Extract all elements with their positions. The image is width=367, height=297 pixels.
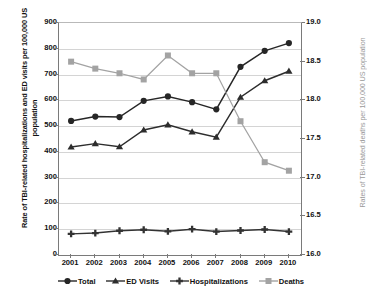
legend-marker-triangle-icon — [106, 276, 125, 286]
x-axis-tick-label: 2010 — [271, 258, 305, 267]
series-ed-visits — [68, 68, 293, 150]
data-point-circle — [286, 40, 292, 46]
data-point-square — [92, 66, 98, 72]
legend-label: Deaths — [279, 277, 304, 286]
chart-legend: TotalED VisitsHospitalizationsDeaths — [58, 276, 304, 286]
data-point-circle — [189, 99, 195, 105]
y-axis-right-tick-label: 19.0 — [306, 17, 332, 26]
legend-marker-cross-icon — [170, 276, 189, 286]
data-point-square — [265, 278, 271, 284]
data-series-layer — [59, 23, 301, 255]
data-point-square — [189, 70, 195, 76]
legend-label: ED Visits — [126, 277, 159, 286]
data-point-cross — [176, 278, 183, 285]
data-point-cross — [237, 227, 244, 234]
data-point-square — [286, 168, 292, 174]
data-point-square — [238, 118, 244, 124]
legend-label: Hospitalizations — [190, 277, 248, 286]
data-point-triangle — [237, 94, 244, 100]
data-point-circle — [213, 106, 219, 112]
legend-marker-square-icon — [259, 276, 278, 286]
plot-area — [58, 22, 302, 256]
data-point-square — [117, 70, 123, 76]
y-axis-right-tick-label: 17.0 — [306, 172, 332, 181]
y-axis-right-tick-label: 18.5 — [306, 56, 332, 65]
data-point-cross — [140, 226, 147, 233]
legend-marker-circle-icon — [58, 276, 77, 286]
series-hospitalizations — [68, 226, 293, 237]
legend-item-hospitalizations[interactable]: Hospitalizations — [170, 276, 248, 286]
data-point-square — [262, 159, 268, 165]
series-total — [68, 40, 292, 124]
data-point-cross — [116, 227, 123, 234]
data-point-cross — [286, 228, 293, 235]
series-deaths — [68, 52, 292, 173]
data-point-circle — [237, 64, 243, 70]
y-axis-right-tick-label: 16.5 — [306, 210, 332, 219]
data-point-square — [68, 59, 74, 65]
data-point-triangle — [285, 68, 292, 74]
data-point-circle — [116, 114, 122, 120]
data-point-cross — [68, 230, 75, 237]
series-line — [71, 229, 289, 234]
series-line — [71, 43, 289, 121]
data-point-triangle — [92, 140, 99, 146]
data-point-square — [213, 70, 219, 76]
data-point-cross — [213, 228, 220, 235]
data-point-square — [141, 76, 147, 82]
legend-label: Total — [78, 277, 96, 286]
y-axis-right-tick-label: 16.0 — [306, 249, 332, 258]
data-point-cross — [92, 230, 99, 237]
y-axis-right-tick-label: 17.5 — [306, 133, 332, 142]
legend-item-total[interactable]: Total — [58, 276, 96, 286]
data-point-cross — [189, 226, 196, 233]
legend-item-deaths[interactable]: Deaths — [259, 276, 304, 286]
data-point-cross — [261, 226, 268, 233]
data-point-circle — [165, 93, 171, 99]
data-point-circle — [141, 98, 147, 104]
data-point-cross — [165, 228, 172, 235]
legend-item-ed-visits[interactable]: ED Visits — [106, 276, 159, 286]
data-point-circle — [68, 118, 74, 124]
series-line — [71, 71, 289, 147]
y-axis-right-title: Rates of TBI-related deaths per 100,000 … — [358, 8, 367, 238]
y-axis-right-tick-label: 18.0 — [306, 94, 332, 103]
data-point-triangle — [164, 121, 171, 127]
data-point-circle — [64, 278, 70, 284]
data-point-circle — [262, 48, 268, 54]
series-line — [71, 55, 289, 170]
data-point-square — [165, 52, 171, 58]
data-point-circle — [92, 113, 98, 119]
